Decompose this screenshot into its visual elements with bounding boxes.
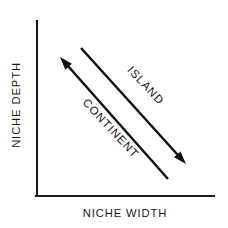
figure-svg: ISLAND CONTINENT NICHE WIDTH NICHE DEPTH bbox=[0, 0, 228, 228]
figure-canvas: ISLAND CONTINENT NICHE WIDTH NICHE DEPTH bbox=[0, 0, 228, 228]
island-label: ISLAND bbox=[125, 64, 166, 107]
y-axis-label: NICHE DEPTH bbox=[10, 62, 22, 148]
continent-arrow-shaft bbox=[65, 63, 168, 179]
continent-arrow bbox=[60, 57, 168, 179]
x-axis-label: NICHE WIDTH bbox=[83, 207, 167, 219]
